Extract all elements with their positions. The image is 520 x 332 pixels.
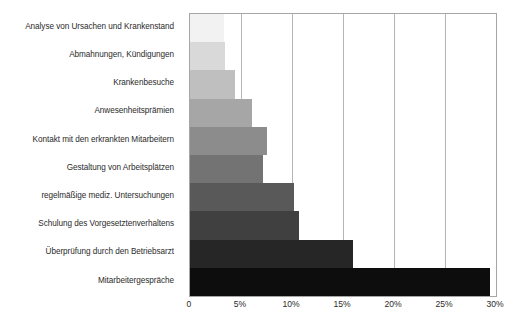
bar-chart: Analyse von Ursachen und KrankenstandAbm… bbox=[0, 0, 520, 332]
bar[interactable] bbox=[190, 155, 263, 183]
bar[interactable] bbox=[190, 70, 235, 98]
bar-row bbox=[190, 155, 496, 183]
value-tick-label: 20% bbox=[384, 299, 401, 309]
bar[interactable] bbox=[190, 240, 353, 268]
category-label: Überprüfung durch den Betriebsarzt bbox=[0, 239, 180, 267]
category-label: Mitarbeitergespräche bbox=[0, 267, 180, 295]
bar[interactable] bbox=[190, 183, 294, 211]
bar-row bbox=[190, 268, 496, 296]
value-tick-label: 25% bbox=[435, 299, 452, 309]
category-label: Analyse von Ursachen und Krankenstand bbox=[0, 13, 180, 41]
bar[interactable] bbox=[190, 99, 252, 127]
bar-row bbox=[190, 70, 496, 98]
bar[interactable] bbox=[190, 127, 267, 155]
value-tick-label: 5% bbox=[234, 299, 246, 309]
value-tick-label: 30% bbox=[486, 299, 503, 309]
bar-row bbox=[190, 127, 496, 155]
category-label: Schulung des Vorgesetztenverhaltens bbox=[0, 210, 180, 238]
bar-row bbox=[190, 42, 496, 70]
value-axis-labels: 05%10%15%20%25%30% bbox=[189, 299, 495, 319]
value-tick-label: 15% bbox=[333, 299, 350, 309]
bar[interactable] bbox=[190, 42, 225, 70]
bar-row bbox=[190, 240, 496, 268]
category-label: Abmahnungen, Kündigungen bbox=[0, 41, 180, 69]
category-label: Anwesenheitsprämien bbox=[0, 98, 180, 126]
bar[interactable] bbox=[190, 268, 490, 296]
bar-row bbox=[190, 211, 496, 239]
category-label: Gestaltung von Arbeitsplätzen bbox=[0, 154, 180, 182]
bar-row bbox=[190, 99, 496, 127]
category-label: regelmäßige mediz. Untersuchungen bbox=[0, 182, 180, 210]
category-label: Kontakt mit den erkrankten Mitarbeitern bbox=[0, 126, 180, 154]
bar-series bbox=[190, 14, 496, 296]
bar[interactable] bbox=[190, 14, 224, 42]
bar-row bbox=[190, 183, 496, 211]
bar-row bbox=[190, 14, 496, 42]
category-label: Krankenbesuche bbox=[0, 69, 180, 97]
value-tick-label: 10% bbox=[282, 299, 299, 309]
plot-area bbox=[189, 13, 497, 297]
value-tick-label: 0 bbox=[187, 299, 192, 309]
category-axis-labels: Analyse von Ursachen und KrankenstandAbm… bbox=[0, 13, 180, 295]
bar[interactable] bbox=[190, 211, 299, 239]
